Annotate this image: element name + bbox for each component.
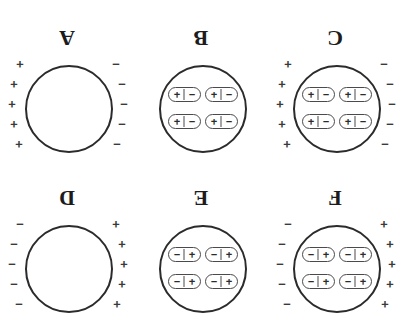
dipole: + − (339, 247, 372, 262)
dipole-sign-right: + (172, 89, 182, 100)
charge-mark: − (108, 58, 124, 71)
figure-row-top: + + + + + − − − − − + − (0, 160, 402, 319)
dipole-sign-right: + (209, 116, 219, 127)
dipole: + − (302, 247, 335, 262)
dipole: + − (339, 274, 372, 289)
charge-mark: − (12, 218, 28, 231)
dipole-sign-left: − (321, 116, 331, 127)
dipole: − + (168, 87, 201, 102)
charge-mark: − (279, 298, 295, 311)
charge-mark: + (274, 118, 290, 131)
dipole-sign-right: + (306, 116, 316, 127)
dipole-sign-left: − (358, 116, 368, 127)
panel-e: + − + − + − + − E (134, 160, 268, 319)
charge-mark: + (116, 258, 132, 271)
dipole-sign-right: − (209, 276, 219, 287)
dipole-sign-right: − (343, 249, 353, 260)
panel-c: − − − − − + + + + + − + (268, 0, 402, 159)
charge-mark: − (109, 138, 125, 151)
sphere-wrap-b: − + − + − + − + (155, 61, 247, 153)
charge-mark: + (274, 78, 290, 91)
dipole-sign-left: + (187, 276, 197, 287)
charge-mark: − (384, 98, 400, 111)
dipole-sign-left: + (224, 276, 234, 287)
surface-charges-left-c: − − − − − (383, 61, 399, 153)
dipole-grid-c: − + − + − + − + (302, 87, 372, 129)
dipole: − + (339, 114, 372, 129)
charge-mark: + (382, 278, 398, 291)
dipole-sign-right: − (306, 249, 316, 260)
charge-mark: − (6, 278, 22, 291)
dipole: + − (205, 274, 238, 289)
dipole-sign-left: + (358, 276, 368, 287)
charge-mark: + (384, 258, 400, 271)
charge-mark: + (376, 218, 392, 231)
surface-charges-right-f: − − − − − (273, 221, 289, 313)
panel-label-c: C (268, 25, 402, 51)
panel-f: + + + + + − − − − − + − (268, 160, 402, 319)
dipole-sign-right: − (343, 276, 353, 287)
dipole: + − (168, 274, 201, 289)
charge-mark: + (4, 98, 20, 111)
panel-d: + + + + + − − − − − D (0, 160, 134, 319)
figure-row-bottom: − − − − − + + + + + − + (0, 0, 402, 159)
charge-mark: + (12, 58, 28, 71)
dipole-sign-right: + (306, 89, 316, 100)
dipole-sign-left: + (321, 249, 331, 260)
dipole-sign-right: + (172, 116, 182, 127)
dipole-grid-b: − + − + − + − + (168, 87, 238, 129)
charge-mark: + (272, 98, 288, 111)
sphere-wrap-e: + − + − + − + − (155, 221, 247, 313)
sphere-outline-d (25, 225, 113, 313)
dipole-sign-left: + (187, 249, 197, 260)
charge-mark: + (114, 278, 130, 291)
charge-mark: − (382, 118, 398, 131)
sphere-wrap-c: − − − − − + + + + + − + (289, 61, 381, 153)
panel-label-d: D (0, 185, 134, 211)
charge-mark: + (108, 218, 124, 231)
charge-mark: − (4, 258, 20, 271)
panel-label-a: A (0, 25, 134, 51)
dipole: − + (339, 87, 372, 102)
dipole-sign-left: − (187, 89, 197, 100)
sphere-wrap-d: + + + + + − − − − − (21, 221, 113, 313)
charge-mark: + (280, 58, 296, 71)
dipole-grid-f: + − + − + − + − (302, 247, 372, 289)
dipole-sign-left: − (224, 116, 234, 127)
dipole-sign-right: + (343, 116, 353, 127)
dipole-sign-right: − (209, 249, 219, 260)
dipole-sign-left: − (321, 89, 331, 100)
surface-charges-left-f: + + + + + (383, 221, 399, 313)
charge-mark: + (6, 118, 22, 131)
dipole-sign-left: − (358, 89, 368, 100)
charge-mark: − (382, 78, 398, 91)
dipole: + − (168, 247, 201, 262)
dipole: − + (302, 114, 335, 129)
dipole-sign-left: − (224, 89, 234, 100)
panel-label-e: E (134, 185, 268, 211)
charge-mark: − (377, 138, 393, 151)
dipole: − + (205, 114, 238, 129)
panel-label-f: F (268, 185, 402, 211)
dipole-sign-right: + (209, 89, 219, 100)
charge-mark: − (376, 58, 392, 71)
dipole: + − (205, 247, 238, 262)
surface-charges-left-d: + + + + + (115, 221, 131, 313)
dipole-grid-e: + − + − + − + − (168, 247, 238, 289)
sphere-wrap-a: − − − − − + + + + + (21, 61, 113, 153)
surface-charges-right-d: − − − − − (5, 221, 21, 313)
charge-mark: + (377, 298, 393, 311)
charge-mark: − (274, 278, 290, 291)
dipole-sign-right: − (172, 276, 182, 287)
dipole: − + (168, 114, 201, 129)
dipole: − + (302, 87, 335, 102)
charge-mark: − (272, 258, 288, 271)
charge-mark: − (114, 78, 130, 91)
charge-mark: − (280, 218, 296, 231)
charge-mark: − (114, 118, 130, 131)
charge-mark: − (116, 98, 132, 111)
charge-mark: + (6, 78, 22, 91)
charge-mark: + (382, 238, 398, 251)
dipole-sign-right: + (343, 89, 353, 100)
sphere-wrap-f: + + + + + − − − − − + − (289, 221, 381, 313)
